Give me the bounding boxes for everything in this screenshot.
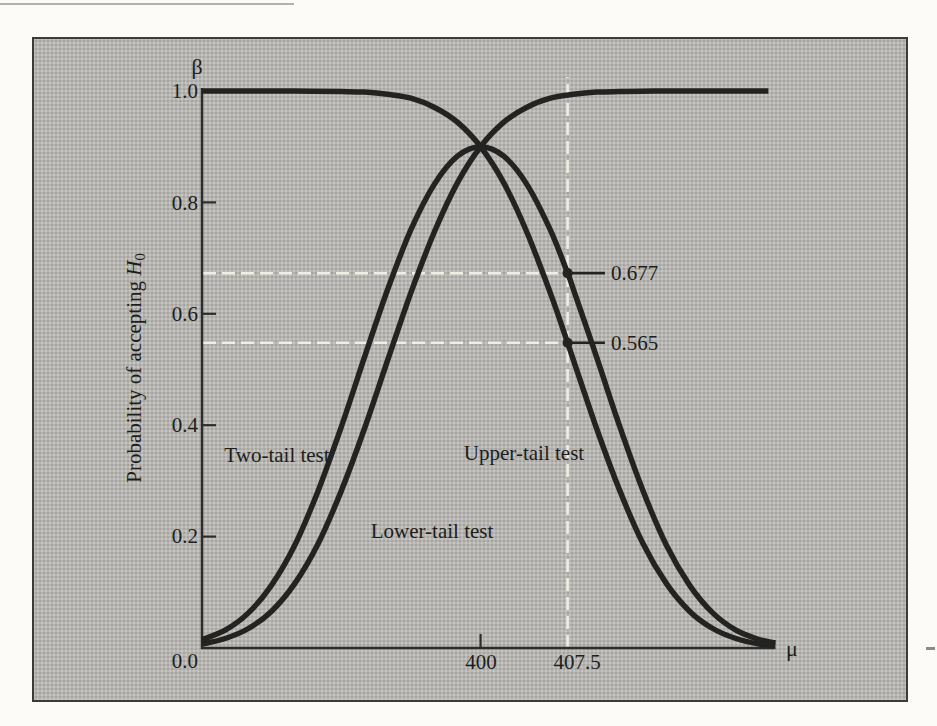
curve-label-two-tail-test: Two-tail test xyxy=(224,445,329,466)
annotation-label-0-677: 0.677 xyxy=(611,263,658,284)
data-point-0-565 xyxy=(563,338,573,348)
y-tick-label-0-4: 0.4 xyxy=(154,415,198,436)
figure-page: β 1.0 0.8 0.6 0.4 0.2 0.0 Probability of… xyxy=(0,0,937,726)
curve-label-upper-tail-test: Upper-tail test xyxy=(464,443,584,464)
y-tick-label-0-6: 0.6 xyxy=(154,304,198,325)
y-axis-title: Probability of accepting H0 xyxy=(124,253,147,483)
y-tick-label-0-2: 0.2 xyxy=(154,526,198,547)
beta-axis-symbol: β xyxy=(191,56,202,78)
y-axis-title-text: Probability of accepting xyxy=(122,276,146,483)
y-tick-label-0-0: 0.0 xyxy=(154,651,198,672)
y-tick-label-1-0: 1.0 xyxy=(154,81,198,102)
axes xyxy=(202,88,775,648)
data-point-0-677 xyxy=(563,268,573,278)
annotation-label-0-565: 0.565 xyxy=(611,333,658,354)
curve-label-lower-tail-test: Lower-tail test xyxy=(371,521,494,542)
y-axis-title-h: H xyxy=(122,261,146,276)
x-tick-label-407-5: 407.5 xyxy=(553,652,600,673)
mu-axis-symbol: μ xyxy=(786,638,798,660)
y-tick-label-0-8: 0.8 xyxy=(154,193,198,214)
y-axis-title-sub: 0 xyxy=(132,253,148,260)
x-tick-label-400: 400 xyxy=(465,652,497,673)
curve-two-tail-test xyxy=(202,147,775,643)
